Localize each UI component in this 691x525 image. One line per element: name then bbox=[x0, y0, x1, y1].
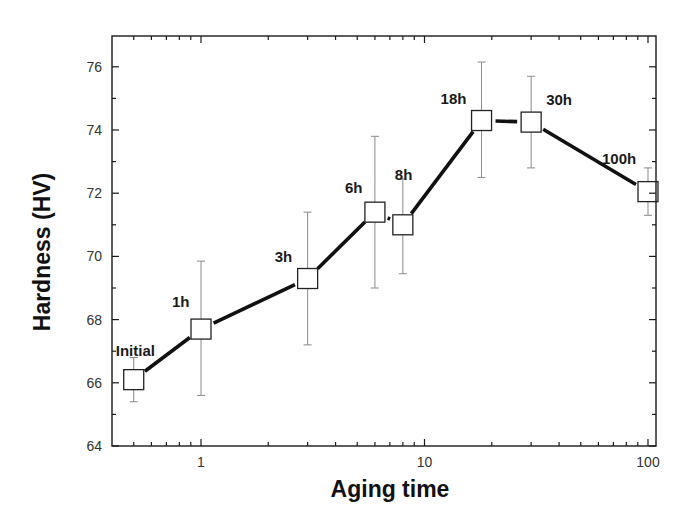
x-tick-label: 100 bbox=[636, 454, 660, 470]
data-markers bbox=[124, 111, 658, 390]
hardness-vs-aging-time-chart: Initial1h3h6h8h18h30h100h 110100 6466687… bbox=[0, 0, 691, 525]
square-marker bbox=[298, 269, 318, 289]
x-axis-title: Aging time bbox=[331, 476, 450, 502]
point-label: 8h bbox=[395, 166, 413, 183]
point-labels: Initial1h3h6h8h18h30h100h bbox=[116, 90, 636, 359]
y-tick-label: 68 bbox=[86, 312, 102, 328]
square-marker bbox=[365, 202, 385, 222]
line-segment bbox=[411, 132, 473, 214]
line-segment bbox=[496, 121, 518, 122]
x-tick-label: 1 bbox=[197, 454, 205, 470]
square-marker bbox=[472, 111, 492, 131]
y-tick-label: 70 bbox=[86, 248, 102, 264]
line-segment bbox=[388, 218, 390, 219]
point-label: 3h bbox=[275, 248, 293, 265]
point-label: 18h bbox=[441, 90, 467, 107]
y-axis-title: Hardness (HV) bbox=[29, 173, 55, 331]
line-segment bbox=[214, 285, 295, 324]
y-tick-label: 74 bbox=[86, 122, 102, 138]
point-label: 100h bbox=[602, 150, 636, 167]
square-marker bbox=[191, 319, 211, 339]
square-marker bbox=[124, 370, 144, 390]
square-marker bbox=[393, 215, 413, 235]
x-tick-label: 10 bbox=[417, 454, 433, 470]
y-tick-label: 76 bbox=[86, 59, 102, 75]
point-label: 1h bbox=[172, 293, 190, 310]
plot-area: Initial1h3h6h8h18h30h100h bbox=[116, 62, 658, 402]
error-bars bbox=[130, 62, 652, 402]
square-marker bbox=[521, 112, 541, 132]
data-line bbox=[145, 121, 636, 371]
y-tick-label: 66 bbox=[86, 375, 102, 391]
y-tick-label: 72 bbox=[86, 185, 102, 201]
x-axis-ticks: 110100 bbox=[134, 36, 660, 470]
point-label: 6h bbox=[345, 179, 363, 196]
square-marker bbox=[638, 182, 658, 202]
line-segment bbox=[318, 222, 365, 269]
y-tick-label: 64 bbox=[86, 438, 102, 454]
plot-frame bbox=[112, 36, 656, 446]
y-axis-ticks: 64666870727476 bbox=[86, 59, 656, 454]
point-label: 30h bbox=[546, 91, 572, 108]
point-label: Initial bbox=[116, 342, 155, 359]
